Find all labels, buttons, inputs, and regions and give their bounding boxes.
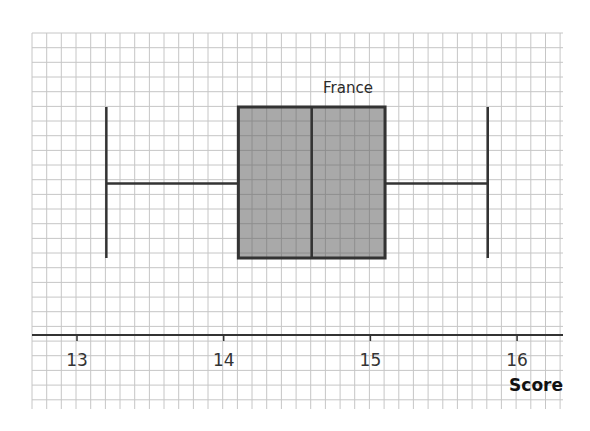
x-tick-label: 16 <box>506 350 528 370</box>
x-tick-label: 14 <box>213 350 235 370</box>
series-label-france: France <box>323 79 373 97</box>
x-tick-label: 15 <box>360 350 382 370</box>
x-tick-label: 13 <box>66 350 88 370</box>
x-axis-title: Score <box>509 375 563 395</box>
box-plot-chart: France 13141516 Score <box>0 0 590 431</box>
